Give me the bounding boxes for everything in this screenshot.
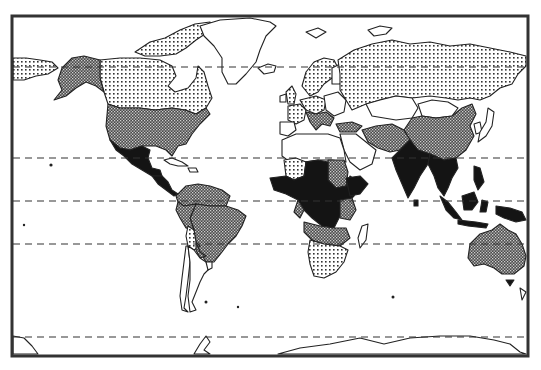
map-svg [0, 0, 541, 370]
island-kerguelen [392, 296, 395, 299]
country-indonesia-sulawesi [480, 200, 488, 212]
caribbean-islands [188, 168, 198, 172]
world-map [0, 0, 541, 370]
island-south-georgia [237, 306, 239, 308]
country-ireland [280, 94, 286, 102]
island-pacific [23, 224, 25, 226]
island-hawaii [49, 163, 52, 166]
island-falklands [205, 301, 208, 304]
